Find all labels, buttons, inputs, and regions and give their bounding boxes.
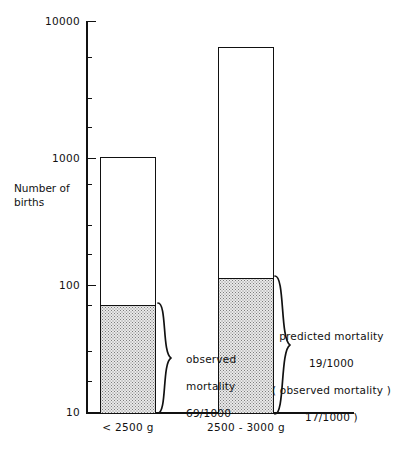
y-tick-minor [87, 225, 92, 226]
annotation-predicted-mortality-right: predicted mortality 19/1000 ( observed m… [272, 316, 391, 438]
annot-right-line3: ( observed mortality ) [272, 384, 391, 398]
annotation-observed-mortality-left: observed mortality 69/1000 [186, 339, 236, 434]
y-tick-label-10000: 10000 [18, 15, 80, 27]
annot-left-line1: observed [186, 353, 236, 367]
chart-canvas: 10000 1000 100 10 Number of births < 250… [0, 0, 401, 451]
bar-deaths-lt2500 [100, 305, 156, 413]
annot-right-line2: 19/1000 [272, 357, 391, 371]
y-axis-line [86, 21, 88, 413]
y-axis-title: Number of births [14, 181, 70, 209]
y-tick-minor [87, 127, 92, 128]
y-tick-10000 [87, 21, 96, 22]
y-tick-label-1000: 1000 [18, 152, 80, 164]
y-tick-1000 [87, 158, 96, 159]
annot-right-line1: predicted mortality [272, 330, 391, 344]
y-tick-minor [87, 57, 92, 58]
annot-right-line4: 17/1000 ) [272, 411, 391, 425]
brace-left [156, 301, 182, 417]
y-tick-label-100: 100 [18, 279, 80, 291]
y-tick-label-10: 10 [18, 406, 80, 418]
y-tick-minor [87, 305, 92, 306]
y-tick-minor [87, 98, 92, 99]
y-tick-minor [87, 254, 92, 255]
annot-left-line3: 69/1000 [186, 407, 236, 421]
y-tick-100 [87, 285, 96, 286]
y-tick-minor [87, 381, 92, 382]
y-tick-minor [87, 184, 92, 185]
x-tick-label-lt2500: < 2500 g [88, 421, 168, 433]
annot-left-line2: mortality [186, 380, 236, 394]
y-tick-minor [87, 351, 92, 352]
